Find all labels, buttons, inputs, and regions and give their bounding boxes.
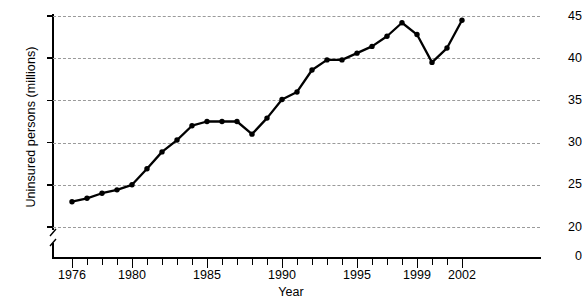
y-tick-label-45: 45 [538, 10, 582, 23]
data-point-1988 [249, 131, 254, 136]
x-tick-1987 [237, 258, 238, 265]
x-tick-1982 [162, 258, 163, 265]
x-tick-1995 [357, 258, 358, 268]
y-tick-label-25: 25 [538, 178, 582, 191]
data-point-1997 [384, 34, 389, 39]
y-tick-40 [47, 57, 52, 59]
y-tick-label-35: 35 [538, 94, 582, 107]
y-tick-label-30: 30 [538, 136, 582, 149]
x-tick-2001 [447, 258, 448, 265]
data-point-1995 [354, 50, 359, 55]
x-tick-1979 [117, 258, 118, 265]
x-tick-1988 [252, 258, 253, 265]
x-tick-1992 [312, 258, 313, 265]
x-tick-label-1976: 1976 [47, 268, 97, 282]
y-tick-label-0: 0 [538, 250, 582, 263]
x-tick-1998 [402, 258, 403, 265]
data-point-2000 [429, 60, 434, 65]
x-tick-1984 [192, 258, 193, 265]
y-tick-45 [47, 15, 52, 17]
y-tick-25 [47, 184, 52, 186]
x-tick-1986 [222, 258, 223, 265]
x-axis-title: Year [0, 285, 582, 299]
x-tick-1996 [372, 258, 373, 265]
x-tick-label-2002: 2002 [437, 268, 487, 282]
x-tick-1985 [207, 258, 208, 268]
data-point-1994 [339, 57, 344, 62]
x-tick-1977 [87, 258, 88, 265]
data-point-1985 [204, 119, 209, 124]
data-point-1981 [144, 166, 149, 171]
data-point-1976 [69, 199, 74, 204]
x-tick-1980 [132, 258, 133, 268]
data-point-1982 [159, 149, 164, 154]
x-tick-1983 [177, 258, 178, 265]
data-point-1993 [324, 57, 329, 62]
y-tick-30 [47, 142, 52, 144]
y-tick-label-40: 40 [538, 52, 582, 65]
data-point-1978 [99, 191, 104, 196]
data-point-1989 [264, 115, 269, 120]
data-point-1983 [174, 137, 179, 142]
x-tick-1989 [267, 258, 268, 265]
data-point-1980 [129, 182, 134, 187]
data-point-2001 [444, 45, 449, 50]
x-tick-1991 [297, 258, 298, 265]
x-tick-1990 [282, 258, 283, 268]
x-tick-label-1995: 1995 [332, 268, 382, 282]
x-tick-1994 [342, 258, 343, 265]
x-tick-1993 [327, 258, 328, 265]
data-point-1990 [279, 97, 284, 102]
y-tick-35 [47, 100, 52, 102]
y-tick-label-20: 20 [538, 221, 582, 234]
plot-area [53, 16, 540, 258]
x-tick-1997 [387, 258, 388, 265]
data-point-1998 [399, 20, 404, 25]
x-tick-label-1990: 1990 [257, 268, 307, 282]
x-tick-1976 [72, 258, 73, 268]
data-point-1991 [294, 89, 299, 94]
data-point-2002 [459, 18, 464, 23]
data-point-1977 [84, 196, 89, 201]
series-line [72, 20, 462, 201]
x-tick-label-1999: 1999 [392, 268, 442, 282]
chart-container: Uninsured persons (millions) Year 202530… [0, 0, 582, 308]
data-point-1979 [114, 187, 119, 192]
data-point-1984 [189, 123, 194, 128]
y-axis-title: Uninsured persons (millions) [24, 22, 38, 232]
data-point-1992 [309, 67, 314, 72]
y-tick-20 [47, 226, 52, 228]
x-tick-1981 [147, 258, 148, 265]
data-point-1996 [369, 44, 374, 49]
data-point-1999 [414, 32, 419, 37]
data-series-uninsured-persons [53, 16, 540, 258]
x-tick-1978 [102, 258, 103, 265]
x-tick-label-1980: 1980 [107, 268, 157, 282]
x-tick-label-1985: 1985 [182, 268, 232, 282]
x-tick-1999 [417, 258, 418, 268]
data-point-1986 [219, 119, 224, 124]
x-tick-2002 [462, 258, 463, 268]
x-tick-2000 [432, 258, 433, 265]
data-point-1987 [234, 119, 239, 124]
